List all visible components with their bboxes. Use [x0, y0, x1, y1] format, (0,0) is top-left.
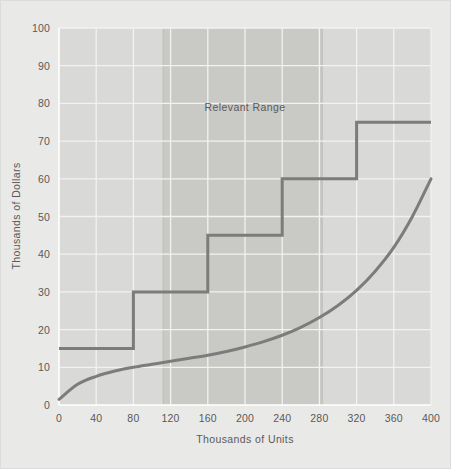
y-tick-label: 80: [38, 97, 50, 109]
y-axis-title: Thousands of Dollars: [10, 162, 22, 269]
x-tick-label: 40: [90, 412, 102, 424]
y-axis-tick-labels: 0102030405060708090100: [32, 22, 50, 411]
y-tick-label: 100: [32, 22, 50, 34]
y-tick-label: 0: [44, 399, 50, 411]
x-tick-label: 80: [127, 412, 139, 424]
x-tick-label: 320: [348, 412, 366, 424]
y-tick-label: 40: [38, 248, 50, 260]
y-tick-label: 10: [38, 361, 50, 373]
x-tick-label: 360: [385, 412, 403, 424]
y-tick-label: 50: [38, 211, 50, 223]
x-tick-label: 240: [273, 412, 291, 424]
x-axis-tick-labels: 04080120160200240280320360400: [56, 412, 440, 424]
relevant-range-label: Relevant Range: [205, 101, 286, 113]
x-tick-label: 120: [162, 412, 180, 424]
chart-container: 0102030405060708090100 04080120160200240…: [0, 0, 451, 469]
y-tick-label: 20: [38, 324, 50, 336]
x-tick-label: 200: [236, 412, 254, 424]
y-tick-label: 60: [38, 173, 50, 185]
x-tick-label: 280: [310, 412, 328, 424]
x-tick-label: 160: [199, 412, 217, 424]
x-tick-label: 400: [422, 412, 440, 424]
y-tick-label: 70: [38, 135, 50, 147]
y-tick-label: 90: [38, 60, 50, 72]
x-axis-title: Thousands of Units: [196, 433, 294, 445]
y-tick-label: 30: [38, 286, 50, 298]
cost-behavior-chart: 0102030405060708090100 04080120160200240…: [0, 0, 451, 469]
x-tick-label: 0: [56, 412, 62, 424]
